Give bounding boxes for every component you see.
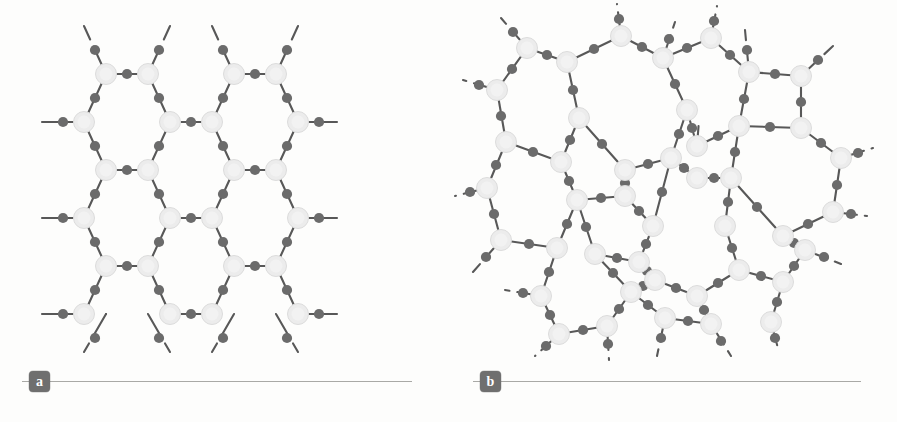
network-former-atom-layer: [74, 64, 309, 325]
bond-layer: [42, 26, 340, 352]
panel-b-amorphous: b: [449, 0, 897, 422]
panel-b-rule: [473, 381, 861, 382]
crystalline-network-diagram: [0, 0, 448, 362]
amorphous-network-diagram: [449, 0, 897, 362]
panel-b-caption-bar: b: [449, 362, 897, 422]
panel-b-badge: b: [480, 371, 501, 392]
panel-a-caption-bar: a: [0, 362, 448, 422]
panel-a-crystalline: a: [0, 0, 448, 422]
figure-root: a: [0, 0, 897, 422]
panel-a-rule: [22, 381, 412, 382]
panel-a-badge: a: [29, 371, 50, 392]
